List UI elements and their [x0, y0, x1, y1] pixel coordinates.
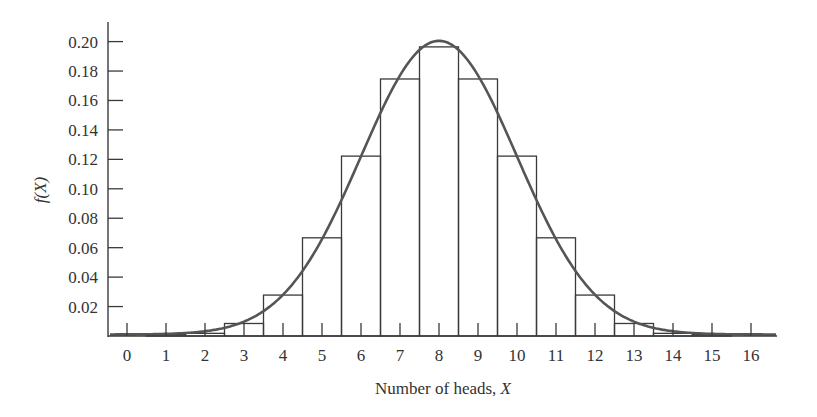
y-tick-label: 0.16	[68, 91, 98, 110]
y-axis-ticks: 0.020.040.060.080.100.120.140.160.180.20	[68, 33, 123, 317]
y-tick-label: 0.20	[68, 33, 98, 52]
x-tick-label: 4	[279, 346, 288, 365]
x-tick-label: 3	[240, 346, 249, 365]
y-tick-label: 0.12	[68, 150, 98, 169]
bar	[537, 238, 576, 336]
histogram-bars	[147, 47, 732, 336]
x-tick-label: 7	[396, 346, 405, 365]
x-tick-label: 2	[201, 346, 210, 365]
x-tick-label: 8	[435, 346, 444, 365]
histogram-chart: 0.020.040.060.080.100.120.140.160.180.20…	[0, 0, 817, 417]
y-tick-label: 0.02	[68, 298, 98, 317]
x-tick-label: 15	[704, 346, 721, 365]
x-tick-label: 5	[318, 346, 327, 365]
x-axis-label: Number of heads, X	[375, 379, 512, 398]
bar	[420, 47, 459, 336]
x-tick-label: 1	[162, 346, 171, 365]
y-tick-label: 0.18	[68, 62, 98, 81]
y-tick-label: 0.08	[68, 209, 98, 228]
y-tick-label: 0.06	[68, 239, 98, 258]
normal-curve	[110, 41, 776, 335]
y-tick-label: 0.10	[68, 180, 98, 199]
y-tick-label: 0.04	[68, 268, 98, 287]
bar	[459, 79, 498, 336]
axes	[108, 22, 777, 337]
x-tick-label: 10	[509, 346, 526, 365]
x-tick-label: 0	[123, 346, 132, 365]
x-tick-label: 9	[474, 346, 483, 365]
bar	[342, 156, 381, 336]
y-axis-label: f(X)	[31, 176, 50, 203]
bar	[498, 156, 537, 336]
y-tick-label: 0.14	[68, 121, 98, 140]
x-tick-label: 13	[626, 346, 643, 365]
x-tick-label: 16	[743, 346, 760, 365]
x-tick-label: 14	[665, 346, 683, 365]
bar	[381, 79, 420, 336]
x-tick-label: 12	[587, 346, 604, 365]
x-tick-label: 11	[548, 346, 564, 365]
x-tick-label: 6	[357, 346, 366, 365]
bar	[303, 238, 342, 336]
